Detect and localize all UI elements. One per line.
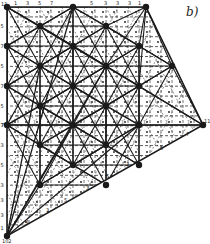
edge-label: 1 <box>14 0 17 6</box>
dashed-grid <box>0 0 210 244</box>
hub-points <box>4 4 206 239</box>
edge-label: 1 <box>26 219 29 225</box>
hub-point <box>37 103 43 109</box>
edge-label: 5 <box>64 197 67 203</box>
edge-label: 7 <box>50 0 53 6</box>
edge-label: 1 <box>1 225 4 231</box>
edge-label: 3 <box>26 0 29 6</box>
edge-label: 5 <box>160 145 163 151</box>
hub-point <box>136 162 142 168</box>
edge-label: 3 <box>1 212 4 218</box>
edge-label: 7 <box>1 43 4 49</box>
edge-label: 3 <box>116 0 119 6</box>
edge-label: 5 <box>1 23 4 29</box>
hub-point <box>70 122 76 128</box>
hub-point <box>70 162 76 168</box>
edge-label: 5 <box>90 0 93 6</box>
hub-point <box>103 142 109 148</box>
hub-point <box>103 182 109 188</box>
edge-label: 3 <box>1 197 4 203</box>
edge-label: 5 <box>1 103 4 109</box>
hub-point <box>37 23 43 29</box>
edge-label: 3 <box>126 161 129 167</box>
hub-point <box>4 122 10 128</box>
edge-label: 3 <box>1 182 4 188</box>
lattice-svg: 5757573533311357533311353535711102711 <box>0 0 210 244</box>
hub-point <box>70 83 76 89</box>
hub-point <box>37 142 43 148</box>
hub-point <box>37 63 43 69</box>
edge-label: 5 <box>38 0 41 6</box>
edge-label: 5 <box>1 63 4 69</box>
panel-label: b) <box>186 5 198 19</box>
edge-label: 3 <box>128 0 131 6</box>
hub-point <box>103 63 109 69</box>
edge-label: 1 <box>138 0 141 6</box>
hub-point <box>136 122 142 128</box>
edge-label: 5 <box>106 173 109 179</box>
edge-label: 11 <box>1 1 7 7</box>
edge-label: 7 <box>186 131 189 137</box>
hub-point <box>143 4 149 10</box>
hub-point <box>4 83 10 89</box>
hub-point <box>70 43 76 49</box>
edge-label: 5 <box>1 162 4 168</box>
edge-label: 7 <box>1 122 4 128</box>
hub-point <box>169 63 175 69</box>
edge-label: 3 <box>104 0 107 6</box>
hub-point <box>103 23 109 29</box>
edge-label: 3 <box>86 185 89 191</box>
lattice-diagram: 5757573533311357533311353535711102711 b) <box>0 0 210 244</box>
hub-point <box>37 182 43 188</box>
edge-label: 11 <box>204 118 210 124</box>
hub-point <box>136 43 142 49</box>
edge-label: 7 <box>1 83 4 89</box>
hub-point <box>103 103 109 109</box>
hub-point <box>70 4 76 10</box>
hub-point <box>4 43 10 49</box>
edge-label: 3 <box>1 142 4 148</box>
edge-label: 3 <box>46 207 49 213</box>
hub-point <box>136 83 142 89</box>
edge-label: 102 <box>2 238 12 244</box>
